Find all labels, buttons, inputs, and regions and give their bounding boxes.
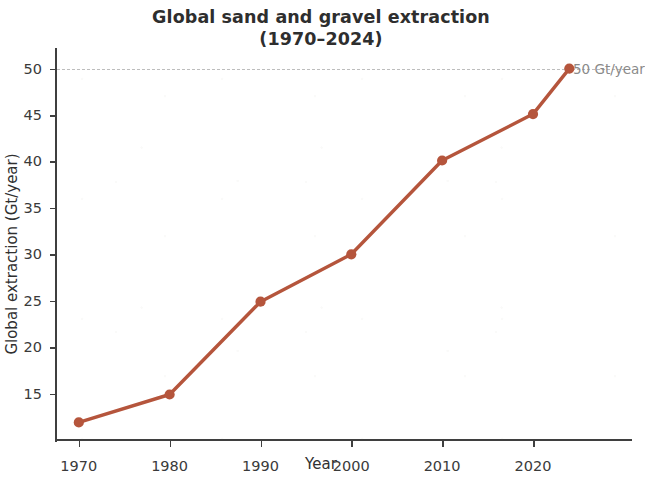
y-tick-label: 50 [24,61,42,77]
y-tick-label: 45 [24,107,42,123]
x-tick-label: 2000 [333,458,370,474]
x-tick-label: 2020 [515,458,552,474]
y-tick-label: 40 [24,153,42,169]
x-tick-label: 1970 [60,458,97,474]
chart-title: Global sand and gravel extraction (1970–… [0,6,642,51]
x-tick-label: 2010 [424,458,461,474]
y-tick-label: 35 [24,200,42,216]
data-point-1970 [74,417,84,427]
y-axis-label: Global extraction (Gt/year) [3,54,21,454]
chart-title-line-1: Global sand and gravel extraction [0,6,642,28]
chart-title-line-2: (1970–2024) [0,28,642,50]
x-tick-label: 1980 [151,458,188,474]
data-point-1980 [165,389,175,399]
data-point-2024 [564,64,574,74]
x-tick-label: 1990 [242,458,279,474]
data-point-2020 [528,109,538,119]
data-point-2000 [346,249,356,259]
series-markers [74,64,575,428]
data-point-1990 [255,297,265,307]
y-tick-label: 20 [24,339,42,355]
y-tick-label: 25 [24,293,42,309]
y-tick-label: 15 [24,386,42,402]
plot-area: 50 45 40 35 30 25 20 15 1970 1980 1990 2… [57,50,630,440]
data-series-line [57,50,630,440]
series-polyline [79,69,570,423]
data-point-2010 [437,155,447,165]
y-tick-label: 30 [24,246,42,262]
